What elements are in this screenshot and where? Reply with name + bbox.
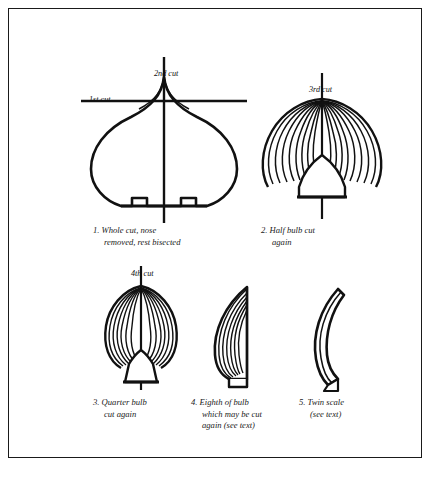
diagram-frame: 1st cut 2nd cut 3rd cut 4th cut 1. Whole…	[8, 8, 422, 458]
figure-whole-bulb	[69, 51, 259, 231]
label-first-cut: 1st cut	[89, 95, 111, 104]
eighth-bulb-drawing	[191, 279, 281, 394]
twin-scale-outline	[315, 289, 344, 385]
figure-twin-scale	[294, 279, 374, 394]
whole-bulb-drawing	[69, 51, 259, 231]
caption-eighth-bulb: 4. Eighth of bulb which may be cut again…	[191, 397, 312, 432]
caption-half-bulb: 2. Half bulb cut again	[261, 225, 402, 248]
figure-quarter-bulb	[81, 264, 201, 394]
eighth-outline	[215, 287, 247, 379]
caption-whole-bulb: 1. Whole cut, nose removed, rest bisecte…	[93, 225, 254, 248]
label-second-cut: 2nd cut	[154, 69, 178, 78]
figure-eighth-bulb	[191, 279, 281, 394]
basal-plate	[299, 155, 345, 197]
caption-twin-scale: 5. Twin scale (see text)	[299, 397, 410, 420]
label-fourth-cut: 4th cut	[131, 269, 154, 278]
basal-foot	[229, 379, 247, 387]
label-third-cut: 3rd cut	[309, 85, 332, 94]
twin-scale-drawing	[294, 279, 374, 394]
quarter-bulb-drawing	[81, 264, 201, 394]
